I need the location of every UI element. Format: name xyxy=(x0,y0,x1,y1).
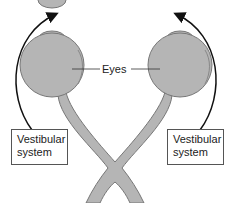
left-eye xyxy=(20,0,84,97)
right-box-line2: system xyxy=(173,146,218,159)
left-box-line2: system xyxy=(17,146,62,159)
right-eye xyxy=(148,31,212,97)
eyes-label: Eyes xyxy=(102,63,126,76)
eye-diagram xyxy=(0,0,231,203)
right-vestibular-box: Vestibular system xyxy=(167,129,224,165)
left-vestibular-box: Vestibular system xyxy=(11,129,68,165)
left-box-line1: Vestibular xyxy=(17,133,62,146)
right-box-line1: Vestibular xyxy=(173,133,218,146)
optic-nerves xyxy=(58,92,172,203)
